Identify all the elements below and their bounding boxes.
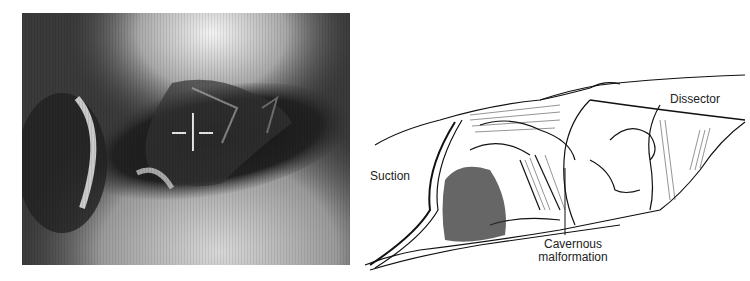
- photo-graphic: [22, 13, 350, 265]
- intraoperative-photo: [22, 13, 350, 265]
- label-cavernous-malformation: Cavernous malformation: [528, 238, 618, 264]
- label-cavernous-line2: malformation: [528, 251, 618, 264]
- label-suction: Suction: [370, 170, 410, 183]
- label-dissector: Dissector: [670, 93, 720, 106]
